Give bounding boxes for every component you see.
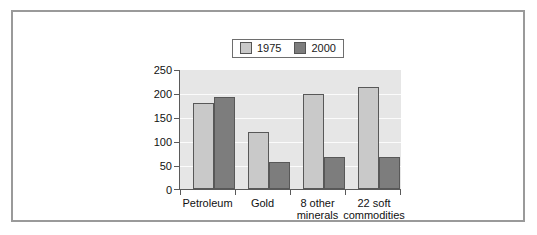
y-tick-label-0: 0 [166, 185, 172, 196]
legend-label-1975: 1975 [257, 42, 281, 54]
x-tick-mark-2 [290, 190, 291, 195]
bar-22-soft-commodities-1975 [358, 87, 379, 189]
legend-swatch-1975-icon [240, 42, 252, 54]
bar-gold-1975 [248, 132, 269, 189]
x-category-label-petroleum: Petroleum [180, 197, 235, 209]
legend-entry-1975: 1975 [240, 42, 281, 54]
x-tick-mark-4 [400, 190, 401, 195]
x-tick-mark-1 [235, 190, 236, 195]
plot-area [180, 70, 401, 189]
x-category-label-8-other-minerals-line2: minerals [290, 209, 345, 221]
bar-chart: 250 200 150 100 50 0 [146, 64, 408, 199]
x-category-label-gold-line1: Gold [251, 197, 274, 209]
y-axis: 250 200 150 100 50 0 [146, 64, 172, 189]
y-tick-label-200: 200 [154, 89, 172, 100]
figure-frame: 1975 2000 250 200 150 100 50 0 [11, 10, 525, 222]
bar-petroleum-2000 [214, 97, 235, 189]
x-category-label-8-other-minerals: 8 other minerals [290, 197, 345, 221]
legend-label-2000: 2000 [311, 42, 335, 54]
y-tick-label-250: 250 [154, 65, 172, 76]
legend-entry-2000: 2000 [294, 42, 335, 54]
x-category-label-22-soft-commodities-line1: 22 soft [357, 197, 390, 209]
y-tick-label-50: 50 [160, 161, 172, 172]
x-category-label-22-soft-commodities: 22 soft commodities [343, 197, 405, 221]
x-category-label-petroleum-line1: Petroleum [182, 197, 232, 209]
bar-petroleum-1975 [193, 103, 214, 189]
chart-page: 1975 2000 250 200 150 100 50 0 [0, 0, 537, 235]
x-category-label-gold: Gold [235, 197, 290, 209]
bar-8-other-minerals-2000 [324, 157, 345, 189]
x-category-label-8-other-minerals-line1: 8 other [300, 197, 334, 209]
x-category-label-22-soft-commodities-line2: commodities [343, 209, 405, 221]
y-tick-label-150: 150 [154, 113, 172, 124]
bar-8-other-minerals-1975 [303, 94, 324, 189]
chart-legend: 1975 2000 [232, 39, 344, 58]
legend-swatch-2000-icon [294, 42, 306, 54]
bar-22-soft-commodities-2000 [379, 157, 400, 189]
y-tick-label-100: 100 [154, 137, 172, 148]
x-tick-mark-3 [345, 190, 346, 195]
x-tick-mark-0 [180, 190, 181, 195]
bar-gold-2000 [269, 162, 290, 189]
